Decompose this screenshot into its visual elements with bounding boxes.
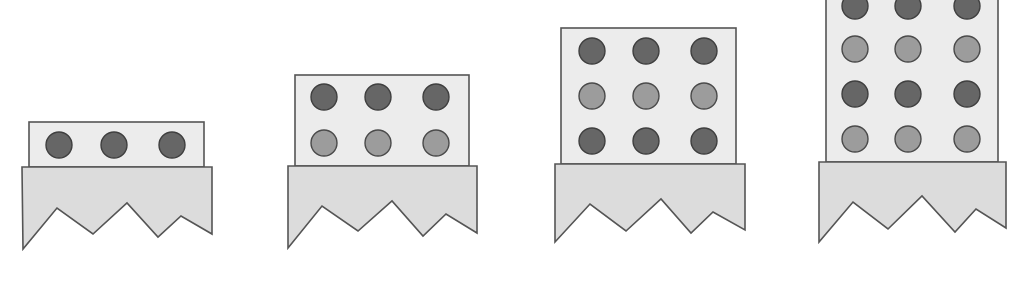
stage-3-figure <box>555 28 745 242</box>
dark-dot <box>159 132 185 158</box>
dark-dot <box>895 0 921 19</box>
jagged-base <box>555 164 745 242</box>
dark-dot <box>691 128 717 154</box>
light-dot <box>365 130 391 156</box>
dark-dot <box>46 132 72 158</box>
stage-2-figure <box>288 75 477 248</box>
light-dot <box>895 126 921 152</box>
light-dot <box>842 36 868 62</box>
stage-1-figure <box>22 122 212 249</box>
dark-dot <box>633 128 659 154</box>
jagged-base <box>22 167 212 249</box>
dark-dot <box>579 128 605 154</box>
light-dot <box>842 126 868 152</box>
dark-dot <box>842 0 868 19</box>
dark-dot <box>954 0 980 19</box>
light-dot <box>579 83 605 109</box>
dark-dot <box>842 81 868 107</box>
dark-dot <box>579 38 605 64</box>
light-dot <box>954 126 980 152</box>
dark-dot <box>691 38 717 64</box>
stage-4-figure <box>819 0 1006 242</box>
jagged-base <box>819 162 1006 242</box>
jagged-base <box>288 166 477 248</box>
dark-dot <box>311 84 337 110</box>
dark-dot <box>895 81 921 107</box>
diagram-canvas <box>0 0 1018 305</box>
dark-dot <box>954 81 980 107</box>
light-dot <box>954 36 980 62</box>
dark-dot <box>423 84 449 110</box>
light-dot <box>633 83 659 109</box>
light-dot <box>691 83 717 109</box>
light-dot <box>311 130 337 156</box>
light-dot <box>423 130 449 156</box>
dark-dot <box>365 84 391 110</box>
dark-dot <box>633 38 659 64</box>
light-dot <box>895 36 921 62</box>
dark-dot <box>101 132 127 158</box>
